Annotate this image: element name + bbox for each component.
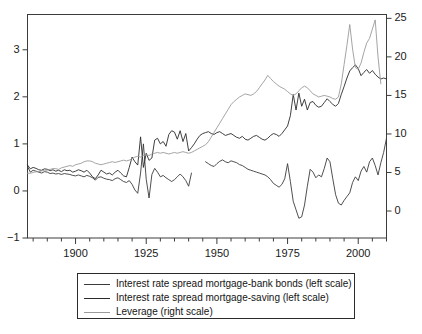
legend-line-swatch — [84, 312, 110, 313]
series-layer — [28, 20, 387, 218]
x-axis-tick-label: 2000 — [338, 248, 378, 259]
x-axis-ticks — [33, 238, 386, 244]
series-line-0 — [206, 138, 387, 218]
right-axis-tick-label: 25 — [395, 12, 407, 23]
legend-line-swatch — [84, 298, 110, 299]
series-line-2 — [28, 20, 381, 173]
series-line-1 — [28, 65, 387, 179]
legend-item: Leverage (right scale) — [84, 305, 354, 319]
right-axis-tick-label: 10 — [395, 128, 407, 139]
legend-item-label: Interest rate spread mortgage-saving (le… — [116, 293, 329, 303]
right-axis-tick-label: 15 — [395, 89, 407, 100]
left-axis-tick-label: 3 — [0, 44, 20, 55]
right-axis-tick-label: 5 — [395, 166, 401, 177]
left-axis-ticks — [23, 50, 28, 238]
right-axis-tick-label: 0 — [395, 205, 401, 216]
x-axis-tick-label: 1925 — [126, 248, 166, 259]
figure: 3210−1 2520151050 19001925195019752000 I… — [0, 0, 422, 334]
legend-item-label: Leverage (right scale) — [116, 307, 213, 317]
legend-item: Interest rate spread mortgage-bank bonds… — [84, 277, 354, 291]
chart-legend: Interest rate spread mortgage-bank bonds… — [77, 273, 355, 319]
plot-frame — [28, 15, 387, 239]
x-axis-tick-label: 1975 — [268, 248, 308, 259]
left-axis-tick-label: 2 — [0, 91, 20, 102]
x-axis-tick-label: 1900 — [56, 248, 96, 259]
plot-border — [28, 15, 387, 239]
right-axis-ticks — [387, 18, 392, 211]
legend-item-label: Interest rate spread mortgage-bank bonds… — [116, 279, 352, 289]
left-axis-tick-label: −1 — [0, 232, 20, 243]
legend-line-swatch — [84, 284, 110, 285]
legend-item: Interest rate spread mortgage-saving (le… — [84, 291, 354, 305]
x-axis-tick-label: 1950 — [197, 248, 237, 259]
right-axis-tick-label: 20 — [395, 51, 407, 62]
left-axis-tick-label: 0 — [0, 185, 20, 196]
left-axis-tick-label: 1 — [0, 138, 20, 149]
series-line-0 — [28, 144, 192, 198]
